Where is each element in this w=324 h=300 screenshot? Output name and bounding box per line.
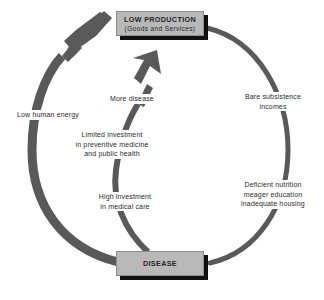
edge-left-arrowhead-barb (67, 11, 112, 49)
label-limited-investment-line1: Limited investment (58, 130, 166, 140)
label-limited-investment: Limited investment in preventive medicin… (58, 130, 166, 159)
label-high-investment: High investment in medical care (76, 192, 174, 211)
label-more-disease: More disease (94, 94, 170, 104)
label-bare-subsistence: Bare subsistence incomes (230, 92, 316, 111)
label-low-human-energy-line1: Low human energy (6, 110, 90, 120)
label-deficient-nutrition-line2: meager education (226, 190, 320, 200)
node-disease-title: DISEASE (143, 259, 177, 268)
node-disease[interactable]: DISEASE (116, 251, 204, 276)
label-bare-subsistence-line1: Bare subsistence (230, 92, 316, 102)
label-high-investment-line2: in medical care (76, 202, 174, 212)
label-limited-investment-line3: and public health (58, 149, 166, 159)
node-low-production-subtitle: (Goods and Services) (125, 24, 196, 33)
label-more-disease-line1: More disease (94, 94, 170, 104)
edge-inner-disease-to-production-shaft (115, 104, 148, 252)
node-low-production-title: LOW PRODUCTION (124, 15, 196, 24)
vicious-cycle-diagram: LOW PRODUCTION (Goods and Services) DISE… (0, 0, 324, 300)
edge-inner-arrowhead (133, 50, 161, 84)
edge-left-disease-to-production-shaft (32, 56, 118, 262)
label-deficient-nutrition-line1: Deficient nutrition (226, 180, 320, 190)
label-limited-investment-line2: in preventive medicine (58, 140, 166, 150)
label-bare-subsistence-line2: incomes (230, 102, 316, 112)
label-deficient-nutrition-line3: inadequate housing (226, 199, 320, 209)
label-deficient-nutrition: Deficient nutrition meager education ina… (226, 180, 320, 209)
label-low-human-energy: Low human energy (6, 110, 90, 120)
edge-right-production-to-disease (207, 28, 288, 263)
label-high-investment-line1: High investment (76, 192, 174, 202)
node-low-production[interactable]: LOW PRODUCTION (Goods and Services) (116, 11, 204, 36)
